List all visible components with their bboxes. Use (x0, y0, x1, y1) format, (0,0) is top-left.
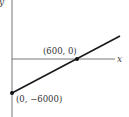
x-axis-label: x (117, 54, 122, 64)
line-chart: y x (600, 0) (0, −6000) (0, 0, 129, 117)
point-label-0-neg6000: (0, −6000) (16, 94, 62, 104)
point-x-intercept (75, 57, 79, 61)
point-y-intercept (10, 91, 14, 95)
point-label-600-0: (600, 0) (43, 46, 77, 56)
data-line (12, 36, 120, 93)
y-axis-label: y (0, 0, 5, 7)
